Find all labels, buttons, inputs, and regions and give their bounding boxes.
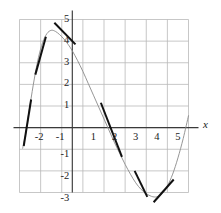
- tangent-line-segments: [24, 23, 174, 202]
- y-tick-label: 3: [64, 57, 69, 68]
- grid-lines: [20, 20, 189, 193]
- y-tick-label: 5: [64, 13, 69, 24]
- axes-lines: [14, 11, 199, 193]
- y-tick-label: 1: [64, 100, 69, 111]
- x-tick-label: 4: [154, 132, 159, 143]
- tangent-at-x-4-5: [154, 180, 174, 203]
- y-tick-label: 2: [64, 78, 69, 89]
- y-tick-label: -3: [61, 192, 70, 203]
- y-tick-label: -1: [61, 149, 70, 160]
- x-tick-label: 5: [175, 132, 180, 143]
- x-tick-label: -1: [56, 132, 65, 143]
- x-tick-label: 1: [91, 132, 96, 143]
- x-tick-label: -2: [35, 132, 44, 143]
- tangent-at-x-minus-2-1: [24, 100, 31, 146]
- graph-figure: -2-11234554321-1-2-3 x: [0, 0, 221, 213]
- y-tick-label: 4: [64, 35, 69, 46]
- x-tick-label: 3: [133, 132, 138, 143]
- x-tick-label: 2: [112, 132, 117, 143]
- x-axis-variable-label: x: [203, 119, 208, 130]
- plot-canvas: [0, 0, 221, 213]
- y-tick-label: -2: [61, 171, 70, 182]
